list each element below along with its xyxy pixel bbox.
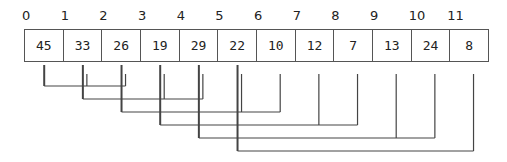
heap-array-diagram: 01234567891011 4533261929221012713248 [0, 0, 507, 162]
parent-child-connectors [0, 0, 507, 162]
